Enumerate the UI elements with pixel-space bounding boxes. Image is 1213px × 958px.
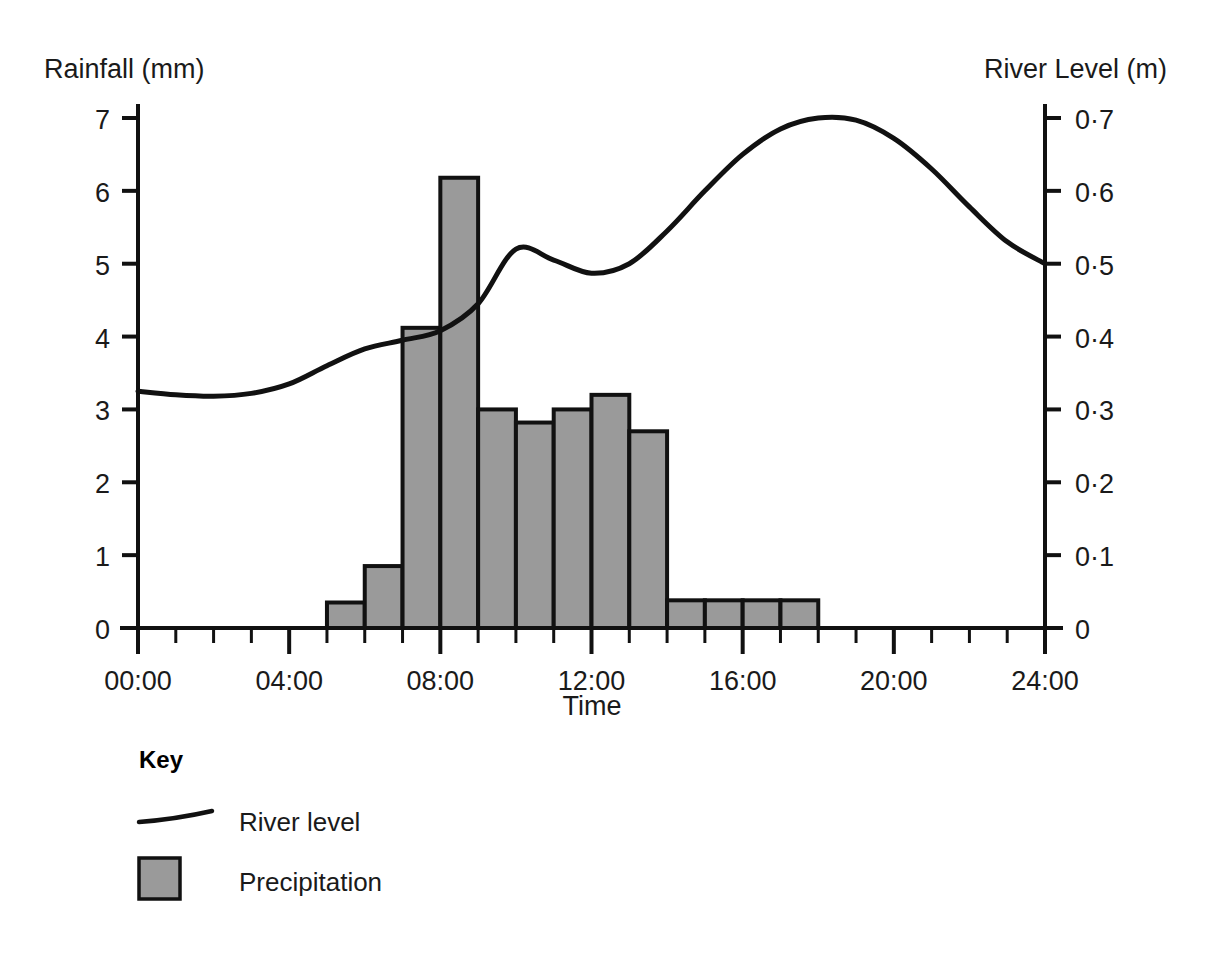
y-axis-tick-label: 4 [95,324,110,354]
x-axis-tick-label: 12:00 [558,666,626,696]
precipitation-bar [365,566,403,628]
x-axis-tick-label: 00:00 [104,666,172,696]
y2-axis-tick-label: 0·3 [1075,396,1114,426]
y2-axis-tick-label: 0·6 [1075,178,1114,208]
key-heading: Key [139,746,184,773]
rainfall-river-level-chart: Rainfall (mm) River Level (m) Time 01234… [0,0,1213,958]
precipitation-bar [667,600,705,628]
x-axis-tick-label: 08:00 [407,666,475,696]
y2-axis-tick-label: 0·5 [1075,251,1114,281]
key-item-label: River level [239,807,360,837]
x-axis-tick-label: 20:00 [860,666,928,696]
x-axis-tick-label: 04:00 [255,666,323,696]
y-axis-tick-label: 6 [95,178,110,208]
y-axis-tick-label: 7 [95,105,110,135]
precipitation-swatch-icon [139,858,180,899]
y2-axis-tick-label: 0·7 [1075,105,1114,135]
precipitation-bar [478,409,516,628]
key-item-label: Precipitation [239,867,382,897]
precipitation-bar [629,431,667,628]
precipitation-bar [592,395,630,628]
y-axis-tick-label: 5 [95,251,110,281]
x-axis-tick-label: 16:00 [709,666,777,696]
precipitation-bar [403,328,441,628]
y2-axis-tick-label: 0·1 [1075,542,1114,572]
precipitation-bar [554,409,592,628]
x-axis-tick-label: 24:00 [1011,666,1079,696]
precipitation-bar [440,178,478,628]
precipitation-bar [516,423,554,628]
precipitation-bar [327,603,365,629]
y-axis-tick-label: 0 [95,615,110,645]
y2-axis-tick-label: 0·4 [1075,324,1114,354]
y2-axis-tick-label: 0 [1075,615,1090,645]
precipitation-bar [743,600,781,628]
y2-axis-tick-label: 0·2 [1075,469,1114,499]
y-axis-tick-label: 3 [95,396,110,426]
precipitation-bar [780,600,818,628]
y-axis-title: Rainfall (mm) [44,54,205,84]
y2-axis-title: River Level (m) [984,54,1167,84]
y-axis-tick-label: 1 [95,542,110,572]
y-axis-tick-label: 2 [95,469,110,499]
precipitation-bar [705,600,743,628]
